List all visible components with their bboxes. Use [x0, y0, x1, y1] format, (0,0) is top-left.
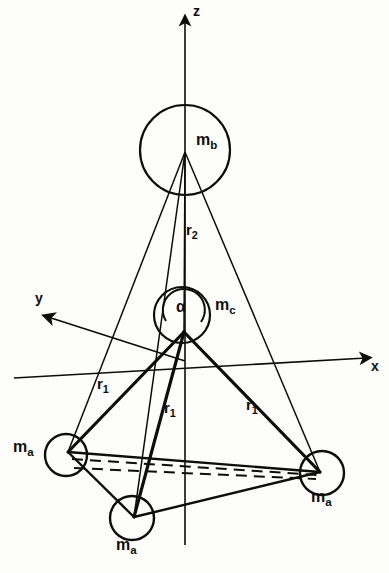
mass-label-m-a-bottom: ma [116, 536, 137, 556]
x-axis [14, 358, 366, 378]
base-edge-left-bottom [68, 452, 134, 517]
x-axis-label: x [371, 358, 379, 374]
mass-label-m-c: mc [215, 296, 236, 316]
distance-label-r1-middle: r1 [164, 399, 176, 419]
distance-label-r1-left: r1 [97, 375, 109, 395]
angle-label-alpha: α [176, 298, 186, 316]
edge-mb-to-ma-bottom [134, 152, 185, 517]
base-triangle-solid [68, 452, 320, 517]
sphere-m-a-left [45, 434, 87, 476]
figure-container: z y x mb mc ma ma ma r2 r1 r1 r1 α [0, 0, 389, 573]
y-axis-label: y [35, 290, 43, 306]
distance-label-r1-right: r1 [246, 396, 258, 416]
sphere-m-a-bottom [110, 496, 154, 540]
mass-label-m-a-right: ma [311, 488, 332, 508]
z-axis-label: z [193, 3, 200, 19]
mass-label-m-b: mb [196, 131, 217, 151]
mass-label-m-a-left: ma [13, 438, 34, 458]
base-edge-left-right [68, 452, 320, 472]
distance-label-r2: r2 [186, 221, 198, 241]
